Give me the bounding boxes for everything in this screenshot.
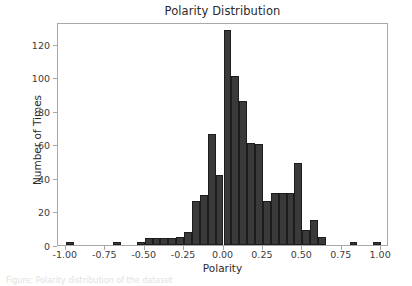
chart-title: Polarity Distribution xyxy=(57,4,388,18)
y-axis-tick-label: 40 xyxy=(10,173,50,184)
histogram-bar xyxy=(231,76,239,245)
x-axis-tick-mark xyxy=(65,246,66,250)
x-axis-tick-mark xyxy=(144,246,145,250)
x-axis-tick-mark xyxy=(183,246,184,250)
figure-caption: Figure: Polarity distribution of the dat… xyxy=(6,276,256,286)
y-axis-tick-label: 100 xyxy=(10,73,50,84)
histogram-bar xyxy=(373,242,381,245)
histogram-bar xyxy=(216,175,224,245)
histogram-bar xyxy=(224,30,232,245)
y-axis-tick-label: 80 xyxy=(10,106,50,117)
plot-frame xyxy=(57,23,388,246)
x-axis-tick-label: 0.00 xyxy=(201,249,245,260)
x-axis-tick-mark xyxy=(341,246,342,250)
y-axis-tick-label: 60 xyxy=(10,140,50,151)
histogram-bar xyxy=(208,134,216,245)
histogram-bar xyxy=(200,195,208,245)
x-axis-tick-label: -0.50 xyxy=(122,249,166,260)
x-axis-tick-label: -0.75 xyxy=(82,249,126,260)
y-axis-tick-label: 20 xyxy=(10,207,50,218)
x-axis-tick-mark xyxy=(104,246,105,250)
x-axis-tick-mark xyxy=(223,246,224,250)
histogram-bar xyxy=(294,163,302,245)
histogram-bar xyxy=(287,193,295,245)
x-axis-tick-label: 0.25 xyxy=(240,249,284,260)
histogram-bar xyxy=(271,193,279,245)
x-axis-label: Polarity xyxy=(57,262,388,274)
histogram-bar xyxy=(184,232,192,245)
histogram-bar xyxy=(279,193,287,245)
histogram-bar xyxy=(192,201,200,245)
x-axis-tick-label: 0.50 xyxy=(279,249,323,260)
y-axis-tick-label: 120 xyxy=(10,39,50,50)
histogram-bar xyxy=(247,143,255,245)
histogram-bar xyxy=(302,230,310,245)
figure-canvas: Polarity Distribution Number of Times Po… xyxy=(0,0,412,286)
histogram-bar xyxy=(176,237,184,245)
histogram-bar xyxy=(239,101,247,245)
y-axis-tick-mark xyxy=(53,246,57,247)
x-axis-tick-mark xyxy=(380,246,381,250)
histogram-bar xyxy=(255,144,263,245)
x-axis-tick-label: 1.00 xyxy=(358,249,402,260)
x-axis-tick-label: -0.25 xyxy=(161,249,205,260)
x-axis-tick-label: -1.00 xyxy=(43,249,87,260)
histogram-bar xyxy=(168,238,176,245)
x-axis-tick-label: 0.75 xyxy=(319,249,363,260)
histogram-bar xyxy=(310,220,318,245)
histogram-bar xyxy=(263,201,271,245)
histogram-bar xyxy=(350,242,358,245)
histogram-bar xyxy=(137,242,145,245)
histogram-bar xyxy=(160,238,168,245)
histogram-bar xyxy=(145,238,153,245)
histogram-bar xyxy=(66,242,74,245)
histogram-bar xyxy=(153,238,161,245)
x-axis-tick-mark xyxy=(262,246,263,250)
histogram-bar xyxy=(318,237,326,245)
histogram-bar xyxy=(113,242,121,245)
histogram-bars xyxy=(58,24,387,245)
x-axis-tick-mark xyxy=(301,246,302,250)
